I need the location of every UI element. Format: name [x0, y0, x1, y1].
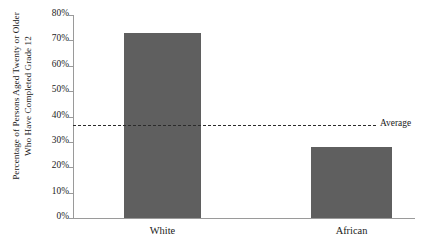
y-axis-tick-label: 80%	[52, 8, 69, 18]
average-line-label: Average	[380, 118, 411, 128]
y-axis-tick-mark	[69, 15, 73, 16]
y-axis-line	[73, 15, 74, 219]
x-axis-label-african: African	[281, 225, 422, 236]
y-axis-tick-label: 40%	[52, 110, 69, 120]
y-axis-tick-label: 30%	[52, 135, 69, 145]
y-axis-tick-label: 50%	[52, 84, 69, 94]
plot-area: 0%10%20%30%40%50%60%70%80% Average	[73, 15, 415, 219]
y-axis-tick-mark	[69, 218, 73, 219]
y-axis-title: Percentage of Persons Aged Twenty or Old…	[11, 0, 45, 208]
y-axis-tick-label: 10%	[52, 186, 69, 196]
y-axis-tick-mark	[69, 40, 73, 41]
bar-chart: Percentage of Persons Aged Twenty or Old…	[0, 0, 431, 247]
y-axis-tick-label: 70%	[52, 33, 69, 43]
y-axis-tick-label: 60%	[52, 59, 69, 69]
x-axis-line	[73, 218, 415, 219]
y-axis-tick-mark	[69, 193, 73, 194]
y-axis-title-line-2: Who Have Completed Grade 12	[23, 0, 35, 208]
y-axis-title-line-1: Percentage of Persons Aged Twenty or Old…	[11, 0, 23, 208]
bar-african[interactable]	[311, 147, 392, 218]
y-axis-tick-label: 20%	[52, 160, 69, 170]
y-axis-tick-mark	[69, 66, 73, 67]
average-reference-line	[73, 125, 376, 126]
x-axis-label-white: White	[94, 225, 231, 236]
y-axis-tick-mark	[69, 91, 73, 92]
y-axis-tick-mark	[69, 142, 73, 143]
y-axis-tick-label: 0%	[57, 211, 70, 221]
y-axis-tick-mark	[69, 167, 73, 168]
y-axis-tick-mark	[69, 117, 73, 118]
